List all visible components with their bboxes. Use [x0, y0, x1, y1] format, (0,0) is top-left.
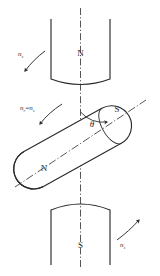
stator-speed-label-bottom-right: ns — [120, 241, 126, 250]
rotor-speed-arrow-middle-left: nr=ns — [20, 104, 62, 124]
machine-cross-section-diagram: N S N S θ — [0, 0, 160, 276]
stator-speed-arrow-bottom-right: ns — [117, 220, 139, 250]
rotor-south-label: S — [114, 104, 119, 114]
bottom-pole-label: S — [78, 240, 83, 250]
top-pole-label: N — [77, 48, 84, 58]
figure-canvas: N S N S θ — [0, 0, 160, 276]
rotor-speed-label-middle-left: nr=ns — [20, 104, 35, 113]
rotor-north-label: N — [41, 163, 48, 173]
stator-speed-label-top-left: ns — [18, 50, 24, 59]
stator-speed-arrow-top-left: ns — [18, 50, 45, 71]
angle-theta-label: θ — [90, 119, 95, 129]
